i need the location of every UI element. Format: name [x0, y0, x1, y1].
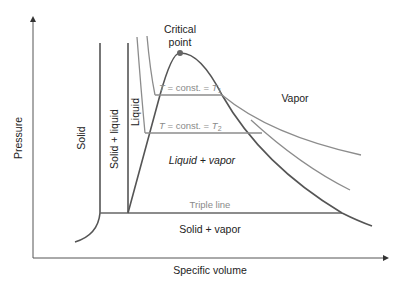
region-liquid: Liquid	[129, 98, 141, 126]
triple-line-label: Triple line	[190, 199, 231, 210]
isotherm-t1-vapor	[222, 95, 361, 155]
isotherm-t2-vapor	[251, 120, 350, 190]
critical-point-label-1: Critical	[164, 23, 196, 35]
isotherm-t1-liquid	[147, 36, 155, 95]
region-solid-vapor: Solid + vapor	[179, 223, 241, 235]
saturation-dome	[128, 53, 372, 226]
region-liquid-vapor: Liquid + vapor	[169, 154, 236, 166]
phase-diagram: Critical point T = const. = T1 T = const…	[0, 0, 405, 290]
x-axis-label: Specific volume	[173, 264, 247, 276]
isotherm-t2-label: T = const. = T2	[159, 120, 222, 132]
critical-point-marker	[177, 50, 183, 56]
y-axis-label: Pressure	[12, 117, 24, 159]
region-solid: Solid	[75, 126, 87, 150]
region-vapor: Vapor	[281, 92, 309, 104]
isotherm-t1-label: T = const. = T1	[159, 82, 222, 94]
critical-point-label-2: point	[169, 36, 192, 48]
region-solid-liquid: Solid + liquid	[108, 109, 120, 169]
